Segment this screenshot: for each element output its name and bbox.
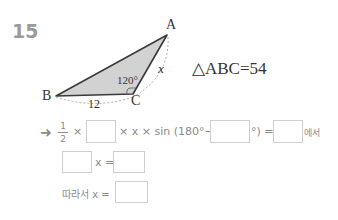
fraction-numerator: 1 [60, 121, 66, 131]
triangle-figure [0, 0, 338, 220]
vertex-b-label: B [42, 88, 51, 104]
vertex-a-label: A [166, 17, 176, 33]
times-sign: × [73, 125, 82, 138]
angle-c-label: 120° [117, 74, 138, 86]
formula-angle: 180°− [178, 125, 214, 138]
given-area: △ABC=54 [192, 58, 267, 79]
answer-box-area[interactable] [273, 120, 303, 143]
arrow-icon: ➜ [40, 124, 52, 140]
formula-middle: × x × sin ( [119, 125, 178, 138]
vertex-c-label: C [131, 93, 140, 109]
answer-box-coefficient[interactable] [62, 151, 92, 173]
triangle-abc [56, 35, 167, 96]
fraction-half: 1 2 [58, 121, 68, 144]
row3-conclusion: 따라서 x = [62, 186, 110, 201]
answer-box-side[interactable] [86, 120, 116, 143]
side-bc-label: 12 [88, 97, 100, 112]
suffix-text: 에서 [304, 126, 320, 139]
fraction-denominator: 2 [60, 134, 66, 144]
formula-close: °) = [251, 125, 274, 138]
answer-box-rhs[interactable] [113, 151, 145, 173]
row2-equation: x = [95, 156, 114, 169]
side-ca-label: x [158, 61, 164, 77]
answer-box-x[interactable] [115, 181, 148, 203]
fraction-bar [58, 132, 68, 133]
answer-box-angle[interactable] [210, 120, 250, 143]
